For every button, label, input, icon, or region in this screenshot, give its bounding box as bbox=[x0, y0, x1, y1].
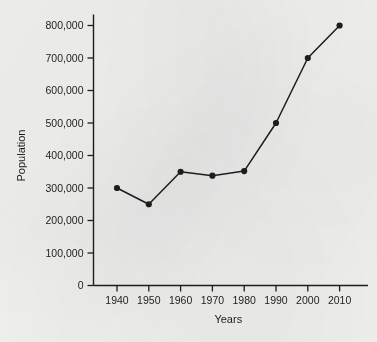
y-tick-label: 200,000 bbox=[46, 214, 84, 226]
data-point-marker bbox=[337, 22, 343, 28]
x-tick-label: 2010 bbox=[328, 294, 352, 306]
y-tick-label: 500,000 bbox=[46, 117, 84, 129]
y-tick-label: 400,000 bbox=[46, 149, 84, 161]
y-tick-label: 100,000 bbox=[46, 247, 84, 259]
data-point-marker bbox=[241, 168, 247, 174]
x-tick-label: 1940 bbox=[105, 294, 129, 306]
x-tick-label: 1980 bbox=[233, 294, 257, 306]
y-axis-ticks: 0100,000200,000300,000400,000500,000600,… bbox=[46, 19, 94, 291]
population-line-chart: 0100,000200,000300,000400,000500,000600,… bbox=[0, 0, 377, 342]
y-tick-label: 700,000 bbox=[46, 52, 84, 64]
data-point-marker bbox=[114, 185, 120, 191]
y-tick-label: 800,000 bbox=[46, 19, 84, 31]
data-point-marker bbox=[305, 55, 311, 61]
y-tick-label: 0 bbox=[78, 279, 84, 291]
y-tick-label: 300,000 bbox=[46, 182, 84, 194]
y-tick-label: 600,000 bbox=[46, 84, 84, 96]
data-point-markers bbox=[114, 22, 343, 207]
data-series-line bbox=[117, 26, 340, 205]
x-axis-title: Years bbox=[214, 313, 242, 325]
x-tick-label: 2000 bbox=[296, 294, 320, 306]
x-tick-label: 1970 bbox=[201, 294, 225, 306]
x-tick-label: 1950 bbox=[137, 294, 161, 306]
axes bbox=[94, 15, 369, 286]
chart-plot-area: 0100,000200,000300,000400,000500,000600,… bbox=[0, 0, 377, 342]
y-axis-title: Population bbox=[15, 130, 27, 182]
x-tick-label: 1960 bbox=[169, 294, 193, 306]
data-point-marker bbox=[273, 120, 279, 126]
x-tick-label: 1990 bbox=[264, 294, 288, 306]
data-point-marker bbox=[178, 169, 184, 175]
x-axis-ticks: 19401950196019701980199020002010 bbox=[105, 286, 351, 307]
data-point-marker bbox=[146, 201, 152, 207]
data-point-marker bbox=[209, 173, 215, 179]
